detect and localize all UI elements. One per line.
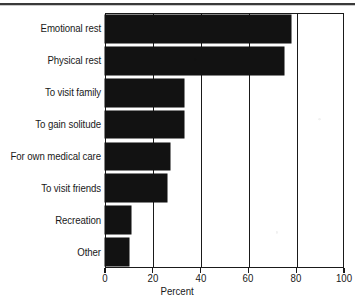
bar [105,174,167,202]
tick-label: 40 [195,272,206,284]
category-label: To gain solitude [8,119,101,130]
bar-chart-figure: Emotional restPhysical restTo visit fami… [0,0,355,298]
tick-label: 20 [147,272,158,284]
bar [105,206,131,234]
tick-label: 100 [336,272,352,284]
category-label: Emotional rest [8,23,101,34]
top-divider-rule-shadow [0,5,355,6]
tick-label: 80 [291,272,302,284]
bar [105,15,291,43]
x-axis-tick-labels: 020406080100 [0,272,355,286]
bar-series [105,13,344,268]
category-label: Physical rest [8,55,101,66]
category-label: Other [8,247,101,258]
category-label: To visit friends [8,183,101,194]
category-axis-labels: Emotional restPhysical restTo visit fami… [0,13,101,268]
x-axis-title: Percent [0,285,355,297]
bar [105,79,184,107]
bar [105,143,170,171]
bar [105,111,184,139]
category-label: To visit family [8,87,101,98]
category-label: For own medical care [8,151,101,162]
category-label: Recreation [8,215,101,226]
tick-label: 60 [243,272,254,284]
bar [105,238,129,266]
tick-label: 0 [102,272,107,284]
x-axis-title-text: Percent [161,285,194,297]
bar [105,47,284,75]
